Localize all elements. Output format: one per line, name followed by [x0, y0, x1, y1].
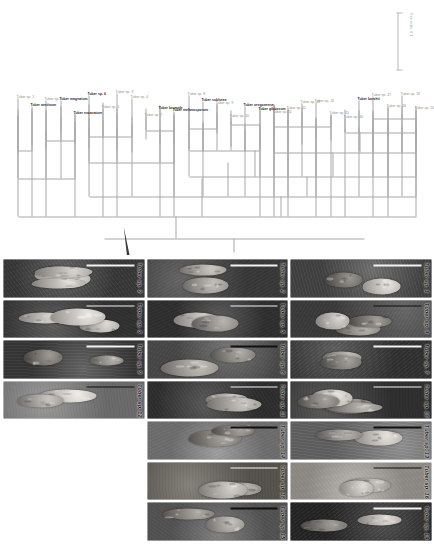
truffle-marbling [189, 366, 196, 369]
truffle-marbling [224, 431, 230, 433]
truffle-marbling [93, 313, 102, 316]
specimen-cell[interactable]: Tuber sp. 12 [3, 381, 144, 419]
tree-branch-horizontal [17, 109, 18, 216]
scale-bar [86, 305, 134, 307]
truffle-marbling [93, 359, 98, 361]
specimen-cell[interactable]: Tuber sp. 14 [147, 421, 288, 459]
specimen-cell[interactable]: Tuber sp. 16 [290, 462, 431, 500]
tree-tip-label: Tuber sp. 4 [130, 95, 148, 99]
specimen-cell[interactable]: Tuber sp. 1 [290, 259, 431, 297]
specimen-cell[interactable]: Tuber sp. 15 [147, 502, 288, 540]
specimen-caption: Tuber sp. 5 [279, 303, 285, 333]
tree-tip-label: Tuber sp. 15 [329, 111, 349, 115]
specimen-cell[interactable]: Tuber sp. 10 [290, 381, 431, 419]
scale-bar [230, 305, 278, 307]
truffle-marbling [312, 402, 319, 405]
specimen-caption: Tuber sp. 19 [423, 505, 429, 538]
truffle-marbling [318, 528, 324, 530]
truffle-marbling [217, 283, 222, 285]
truffle-marbling [23, 315, 31, 316]
truffle-specimen [347, 315, 391, 327]
truffle-marbling [204, 513, 209, 515]
scale-bar [373, 467, 421, 469]
truffle-marbling [246, 408, 253, 409]
specimen-cell[interactable]: Tuber sp. 11 [147, 381, 288, 419]
truffle-specimen [31, 278, 84, 288]
truffle-specimen [324, 272, 361, 287]
scale-bar [86, 386, 134, 388]
truffle-marbling [85, 327, 90, 330]
tree-branch-horizontal [373, 128, 374, 216]
truffle-marbling [344, 395, 347, 396]
specimen-cell[interactable]: Tuber sp. 19 [290, 502, 431, 540]
specimen-caption: Tuber sp. 11 [279, 384, 285, 417]
truffle-marbling [244, 404, 247, 405]
truffle-marbling [325, 321, 329, 324]
scale-bar [230, 507, 278, 509]
truffle-specimen [300, 519, 347, 532]
scale-bar [230, 345, 278, 347]
specimen-cell[interactable]: Tuber sp. 18 [147, 462, 288, 500]
truffle-marbling [176, 509, 180, 510]
truffle-marbling [235, 351, 241, 352]
phylogenetic-tree-panel: Tree scale: 0.1 Tuber sp. 20Tuber sp. 19… [0, 0, 434, 255]
truffle-marbling [382, 520, 388, 521]
specimen-cell[interactable]: Tuber sp. 4 [290, 300, 431, 338]
scale-bar-label: Tree scale: 0.1 [408, 12, 412, 36]
truffle-marbling [81, 397, 90, 399]
truffle-marbling [220, 442, 226, 443]
truffle-specimen [179, 264, 227, 275]
truffle-marbling [368, 408, 371, 410]
truffle-marbling [213, 327, 219, 328]
truffle-marbling [325, 325, 330, 326]
truffle-marbling [164, 516, 173, 518]
tree-branch-horizontal [88, 127, 89, 196]
truffle-marbling [390, 520, 396, 522]
truffle-marbling [382, 316, 388, 319]
specimen-cell[interactable]: Tuber sp. 6 [3, 300, 144, 338]
tree-branch-horizontal [307, 176, 308, 196]
tree-tip-label: Tuber borchii [357, 97, 379, 101]
truffle-marbling [196, 270, 199, 272]
truffle-specimen [297, 394, 339, 408]
truffle-marbling [393, 434, 396, 437]
truffle-marbling [383, 516, 388, 518]
figure-root: Tree scale: 0.1 Tuber sp. 20Tuber sp. 19… [0, 0, 434, 544]
specimen-cell[interactable]: Tuber sp. 9 [3, 340, 144, 378]
scale-bar [230, 264, 278, 266]
truffle-specimen [205, 516, 243, 533]
truffle-marbling [322, 398, 327, 399]
truffle-marbling [251, 487, 257, 488]
scale-bar [230, 426, 278, 428]
specimen-caption: Tuber sp. 16 [423, 465, 429, 498]
tree-branch-vertical [345, 132, 416, 133]
specimen-cell[interactable]: Tuber sp. 8 [147, 340, 288, 378]
scale-tick-start [396, 12, 402, 13]
specimen-cell[interactable]: Tuber sp. 13 [290, 421, 431, 459]
tree-branch-vertical [18, 216, 416, 217]
tree-branch-horizontal [117, 113, 118, 216]
truffle-marbling [248, 488, 255, 490]
tree-branch-horizontal [254, 150, 255, 176]
scale-bar [230, 386, 278, 388]
tree-tip-label: Tuber sp. 7 [144, 113, 162, 117]
truffle-marbling [361, 492, 363, 495]
truffle-marbling [344, 357, 347, 359]
truffle-specimen [210, 347, 256, 362]
specimen-cell[interactable]: Tuber sp. 5 [147, 300, 288, 338]
specimen-cell[interactable]: Tuber sp. 3 [3, 259, 144, 297]
truffle-marbling [361, 322, 367, 324]
specimen-cell[interactable]: Tuber sp. 2 [147, 259, 288, 297]
truffle-marbling [305, 396, 307, 399]
truffle-marbling [45, 403, 50, 405]
truffle-marbling [307, 520, 310, 523]
tree-canvas: Tree scale: 0.1 Tuber sp. 20Tuber sp. 19… [0, 0, 434, 255]
tree-branch-horizontal [415, 119, 416, 216]
specimen-cell[interactable]: Tuber sp. 7 [290, 340, 431, 378]
truffle-marbling [48, 402, 55, 404]
specimen-caption: Tuber sp. 6 [136, 303, 142, 333]
truffle-marbling [240, 402, 246, 403]
truffle-marbling [59, 275, 68, 277]
tree-branch-vertical [89, 136, 132, 137]
tree-branch-horizontal [273, 125, 274, 216]
